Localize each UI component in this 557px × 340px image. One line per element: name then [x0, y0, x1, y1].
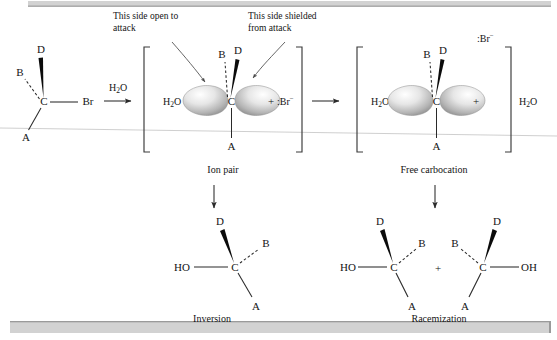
free-carbocation-label-B: B: [423, 48, 430, 60]
inversion-bond-B-dashed: [240, 249, 259, 263]
free-carbocation-charge: +: [473, 95, 479, 107]
inversion-label-B: B: [262, 237, 269, 249]
annotation-shielded-side-line1: This side shielded: [248, 11, 317, 21]
ion-pair-label-A: A: [228, 140, 236, 152]
racemization-left-label-D: D: [376, 215, 384, 227]
racemization-left-label-A: A: [408, 300, 416, 312]
racemization-right-bond-D-wedge: [484, 229, 497, 263]
step1-arrow-group: H2O: [104, 82, 131, 101]
annotation-shielded-side: This side shielded from attack: [248, 11, 317, 78]
reactant-bond-B-dashed: [25, 79, 40, 99]
racemization-right-bond-B-dashed: [461, 249, 478, 263]
inversion-bond-A: [238, 273, 252, 297]
racemization-left-bond-B-dashed: [399, 249, 416, 263]
inversion-label-D: D: [216, 215, 224, 227]
free-carbocation-label-A: A: [433, 140, 441, 152]
product-racemization-right-structure: C OH D B A: [451, 215, 537, 312]
ion-pair-structure: H2O C + B D A :Br−: [163, 44, 294, 152]
racemization-right-hydroxyl-label: OH: [521, 261, 537, 273]
caption-racemization: Racemization: [412, 313, 467, 324]
annotation-open-side-line2: attack: [113, 23, 136, 33]
annotation-shielded-side-line2: from attack: [248, 23, 292, 33]
reactant-bond-D-wedge: [39, 58, 44, 99]
step1-reagent-water: H2O: [109, 82, 127, 95]
free-carbocation-solvent-left: H2O: [371, 96, 389, 109]
racemization-right-center-label: C: [479, 261, 486, 273]
inversion-hydroxyl-label: HO: [174, 261, 190, 273]
ion-pair-solvent-left: H2O: [163, 96, 181, 109]
reactant-label-B: B: [16, 66, 23, 78]
ion-pair-charge: +: [268, 95, 274, 107]
reactant-label-Br: Br: [83, 95, 94, 107]
ion-pair-bromide: :Br−: [277, 95, 294, 107]
caption-ion-pair: Ion pair: [207, 164, 239, 175]
curved-arrow-open-side: [172, 42, 205, 82]
figure-canvas: C D B A Br H2O This side open to attack: [0, 0, 557, 340]
free-carbocation-center-label: C: [433, 95, 440, 107]
racemization-left-bond-A: [396, 273, 408, 297]
reaction-mechanism-figure: C D B A Br H2O This side open to attack: [0, 0, 557, 340]
racemization-plus-sign: +: [435, 262, 441, 274]
racemization-left-label-B: B: [418, 237, 425, 249]
racemization-right-label-A: A: [461, 300, 469, 312]
scan-artifact-line: [0, 128, 557, 136]
free-carbocation-bromide: :Br−: [477, 32, 494, 44]
racemization-right-label-B: B: [451, 237, 458, 249]
caption-inversion: Inversion: [193, 313, 231, 324]
racemization-left-center-label: C: [390, 261, 397, 273]
reactant-label-A: A: [22, 131, 30, 143]
racemization-right-label-D: D: [493, 215, 501, 227]
inversion-center-label: C: [231, 261, 238, 273]
annotation-open-side-line1: This side open to: [113, 11, 178, 21]
product-inversion-structure: C HO D B A: [174, 215, 270, 312]
reactant-bond-A: [29, 108, 42, 130]
free-carbocation-label-D: D: [439, 44, 447, 56]
curved-arrow-shielded-side: [253, 42, 285, 78]
annotation-open-side: This side open to attack: [113, 11, 205, 82]
racemization-left-hydroxyl-label: HO: [340, 261, 356, 273]
caption-free-carbocation: Free carbocation: [401, 164, 468, 175]
racemization-left-bond-D-wedge: [380, 229, 393, 263]
page-band-top: [28, 1, 551, 7]
ion-pair-center-label: C: [228, 95, 235, 107]
ion-pair-label-B: B: [218, 48, 225, 60]
ion-pair-bond-B-dashed: [225, 62, 228, 97]
reactant-center-label: C: [40, 95, 47, 107]
racemization-right-bond-A: [469, 273, 481, 297]
inversion-label-A: A: [252, 300, 260, 312]
product-racemization-left-structure: C HO D B A: [340, 215, 426, 312]
free-carbocation-bond-B-dashed: [430, 62, 433, 97]
inversion-bond-D-wedge: [220, 229, 234, 263]
page-band-bottom: [10, 321, 551, 333]
free-carbocation-solvent-right: H2O: [519, 96, 537, 109]
reactant-label-D: D: [37, 43, 45, 55]
ion-pair-label-D: D: [234, 44, 242, 56]
